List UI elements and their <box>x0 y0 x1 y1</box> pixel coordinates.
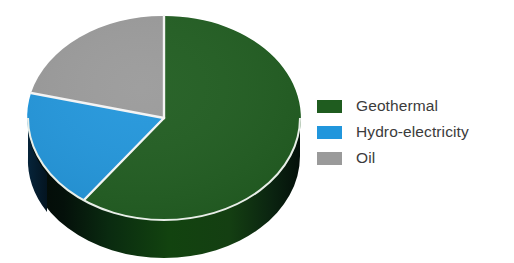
legend-item-geothermal[interactable]: Geothermal <box>317 93 507 119</box>
legend-label-geothermal: Geothermal <box>356 98 438 114</box>
pie-chart-graphic <box>0 0 320 263</box>
legend-swatch-oil <box>317 152 342 165</box>
legend-label-hydro-electricity: Hydro-electricity <box>356 124 469 140</box>
pie-svg <box>0 0 320 263</box>
legend-item-hydro-electricity[interactable]: Hydro-electricity <box>317 119 507 145</box>
legend-label-oil: Oil <box>356 150 375 166</box>
legend-swatch-hydro-electricity <box>317 126 342 139</box>
chart-legend: Geothermal Hydro-electricity Oil <box>317 93 507 171</box>
legend-item-oil[interactable]: Oil <box>317 145 507 171</box>
pie-chart-figure: Geothermal Hydro-electricity Oil <box>0 0 514 263</box>
legend-swatch-geothermal <box>317 100 342 113</box>
